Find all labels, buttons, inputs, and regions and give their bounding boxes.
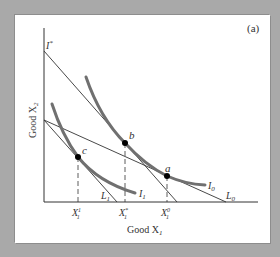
curve-i1-label: I1	[138, 188, 146, 201]
x-tick-x1-1: X11	[71, 207, 81, 220]
x-tick-x1-0: X01	[160, 207, 170, 220]
x-tick-x1-star: X*1	[118, 207, 128, 220]
point-b-marker	[122, 140, 128, 146]
point-b-label: b	[129, 129, 135, 141]
curve-i0-label: I0	[207, 180, 215, 193]
y-axis-title: Good X2	[27, 102, 40, 138]
intercept-label: I*	[45, 39, 53, 51]
figure-frame: c b a I* I0 I1 L0 L1 X11 X*1 X01	[0, 0, 280, 257]
indifference-diagram: c b a I* I0 I1 L0 L1 X11 X*1 X01	[0, 0, 280, 257]
x-axis-title: Good X1	[127, 224, 162, 237]
panel-label: (a)	[247, 22, 260, 35]
indifference-curve-i0	[86, 77, 205, 185]
point-a-label: a	[165, 162, 171, 174]
indifference-curve-i1	[52, 104, 135, 193]
point-c-marker	[75, 154, 81, 160]
line-l0-label: L0	[225, 190, 236, 203]
budget-line-l0	[44, 120, 226, 202]
point-c-label: c	[82, 144, 87, 156]
